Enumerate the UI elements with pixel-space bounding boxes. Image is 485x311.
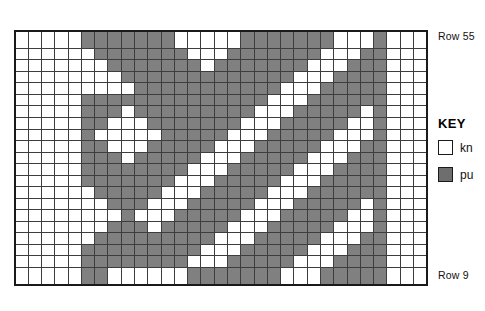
- stitch-cell: [42, 198, 55, 210]
- stitch-cell: [68, 198, 81, 210]
- stitch-cell: [108, 187, 121, 199]
- stitch-cell: [161, 175, 174, 187]
- stitch-cell: [201, 141, 214, 153]
- stitch-cell: [148, 164, 161, 176]
- stitch-cell: [28, 233, 41, 245]
- stitch-cell: [81, 94, 94, 106]
- stitch-row: [15, 60, 427, 72]
- stitch-cell: [347, 198, 360, 210]
- stitch-cell: [413, 267, 427, 285]
- stitch-cell: [228, 118, 241, 130]
- stitch-cell: [228, 106, 241, 118]
- stitch-cell: [161, 141, 174, 153]
- stitch-cell: [108, 175, 121, 187]
- stitch-cell: [214, 83, 227, 95]
- key-title: KEY: [438, 116, 485, 131]
- stitch-cell: [334, 198, 347, 210]
- stitch-cell: [55, 94, 68, 106]
- stitch-cell: [307, 48, 320, 60]
- stitch-cell: [95, 118, 108, 130]
- stitch-cell: [95, 256, 108, 268]
- stitch-cell: [320, 210, 333, 222]
- stitch-cell: [347, 164, 360, 176]
- stitch-cell: [121, 267, 134, 285]
- stitch-cell: [228, 60, 241, 72]
- stitch-cell: [201, 71, 214, 83]
- stitch-cell: [374, 129, 387, 141]
- stitch-cell: [135, 152, 148, 164]
- stitch-cell: [267, 175, 280, 187]
- stitch-cell: [374, 267, 387, 285]
- stitch-cell: [95, 83, 108, 95]
- stitch-cell: [400, 210, 413, 222]
- stitch-cell: [294, 83, 307, 95]
- stitch-cell: [320, 141, 333, 153]
- stitch-cell: [214, 118, 227, 130]
- stitch-cell: [95, 244, 108, 256]
- stitch-cell: [413, 164, 427, 176]
- stitch-cell: [174, 48, 187, 60]
- stitch-cell: [228, 129, 241, 141]
- stitch-cell: [68, 60, 81, 72]
- stitch-cell: [374, 106, 387, 118]
- stitch-cell: [148, 198, 161, 210]
- stitch-cell: [95, 71, 108, 83]
- stitch-cell: [201, 256, 214, 268]
- stitch-cell: [214, 106, 227, 118]
- stitch-cell: [148, 256, 161, 268]
- stitch-row: [15, 267, 427, 285]
- stitch-cell: [307, 244, 320, 256]
- stitch-cell: [55, 152, 68, 164]
- stitch-cell: [228, 233, 241, 245]
- stitch-cell: [188, 164, 201, 176]
- stitch-cell: [320, 60, 333, 72]
- stitch-cell: [267, 187, 280, 199]
- stitch-cell: [360, 106, 373, 118]
- stitch-cell: [387, 94, 400, 106]
- stitch-cell: [81, 164, 94, 176]
- stitch-cell: [294, 244, 307, 256]
- stitch-cell: [188, 244, 201, 256]
- stitch-cell: [42, 48, 55, 60]
- stitch-cell: [347, 129, 360, 141]
- stitch-cell: [228, 221, 241, 233]
- stitch-cell: [174, 60, 187, 72]
- stitch-cell: [254, 118, 267, 130]
- stitch-cell: [135, 71, 148, 83]
- stitch-cell: [201, 60, 214, 72]
- stitch-cell: [161, 83, 174, 95]
- stitch-cell: [413, 141, 427, 153]
- stitch-cell: [214, 175, 227, 187]
- stitch-cell: [374, 221, 387, 233]
- stitch-cell: [15, 164, 28, 176]
- stitch-cell: [214, 244, 227, 256]
- stitch-cell: [108, 210, 121, 222]
- stitch-cell: [15, 71, 28, 83]
- stitch-cell: [360, 175, 373, 187]
- stitch-cell: [387, 141, 400, 153]
- stitch-cell: [68, 152, 81, 164]
- stitch-cell: [188, 83, 201, 95]
- stitch-cell: [360, 118, 373, 130]
- stitch-cell: [28, 129, 41, 141]
- stitch-cell: [81, 31, 94, 48]
- stitch-cell: [148, 210, 161, 222]
- stitch-cell: [281, 83, 294, 95]
- stitch-cell: [121, 31, 134, 48]
- stitch-cell: [201, 118, 214, 130]
- stitch-cell: [188, 31, 201, 48]
- stitch-cell: [334, 187, 347, 199]
- stitch-cell: [55, 83, 68, 95]
- stitch-cell: [174, 118, 187, 130]
- stitch-cell: [334, 175, 347, 187]
- stitch-cell: [241, 118, 254, 130]
- stitch-cell: [334, 233, 347, 245]
- stitch-cell: [135, 175, 148, 187]
- stitch-cell: [347, 94, 360, 106]
- stitch-cell: [267, 60, 280, 72]
- stitch-cell: [135, 221, 148, 233]
- stitch-cell: [214, 221, 227, 233]
- stitch-row: [15, 94, 427, 106]
- stitch-cell: [307, 198, 320, 210]
- stitch-cell: [55, 48, 68, 60]
